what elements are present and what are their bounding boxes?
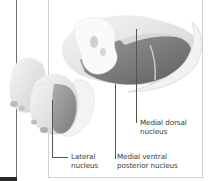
- label-medial-dorsal-line1: Medial dorsal: [140, 118, 187, 127]
- lateral-nucleus-structure: [30, 74, 95, 136]
- label-lateral-line2: nucleus: [71, 161, 98, 170]
- label-mvp-line1: Medial ventral: [117, 152, 178, 161]
- label-medial-ventral-posterior-nucleus: Medial ventral posterior nucleus: [117, 152, 178, 170]
- label-lateral-nucleus: Lateral nucleus: [71, 152, 98, 170]
- label-medial-dorsal-line2: nucleus: [140, 127, 187, 136]
- label-mvp-line2: posterior nucleus: [117, 161, 178, 170]
- medial-ventral-leader: [115, 84, 116, 159]
- label-medial-dorsal-nucleus: Medial dorsal nucleus: [140, 118, 187, 136]
- lateral-leader-horizontal: [52, 157, 68, 158]
- medial-dorsal-leader: [136, 29, 137, 123]
- label-lateral-line1: Lateral: [71, 152, 98, 161]
- thalamus-illustration: [0, 0, 211, 181]
- lateral-leader-vertical: [52, 100, 53, 157]
